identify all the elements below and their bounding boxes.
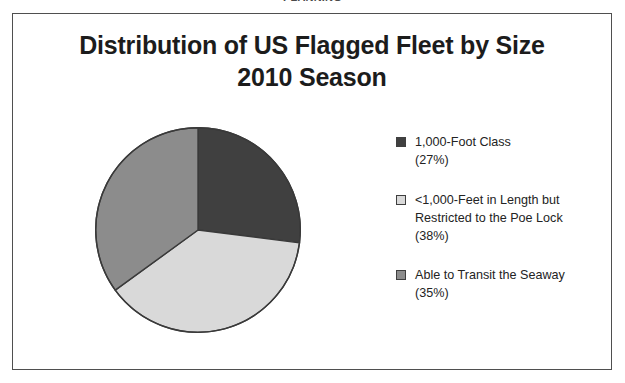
pie-slice-1000-foot-class[interactable] xyxy=(198,128,300,243)
legend-label-line-1: 1,000-Foot Class xyxy=(415,134,611,152)
plot-area: 1,000-Foot Class (27%) <1,000-Feet in Le… xyxy=(13,14,613,371)
legend-label-line-1: <1,000-Feet in Length but xyxy=(415,192,611,210)
legend-swatch-icon-1000-foot-class xyxy=(396,137,406,147)
legend-label-line-2: Restricted to the Poe Lock xyxy=(415,210,611,228)
legend-item-under-1000-feet-poe-lock[interactable]: <1,000-Feet in Length but Restricted to … xyxy=(396,192,611,246)
chart-legend: 1,000-Foot Class (27%) <1,000-Feet in Le… xyxy=(396,134,611,325)
pie-slices xyxy=(96,128,301,333)
legend-swatch-icon-under-1000-feet-poe-lock xyxy=(396,195,406,205)
legend-percent: (27%) xyxy=(415,152,611,170)
legend-percent: (38%) xyxy=(415,228,611,246)
clipped-page-header-text: PLANNING xyxy=(0,0,625,3)
legend-label-line-1: Able to Transit the Seaway xyxy=(415,267,611,285)
legend-percent: (35%) xyxy=(415,285,611,303)
pie-chart xyxy=(93,125,303,335)
legend-item-able-to-transit-seaway[interactable]: Able to Transit the Seaway (35%) xyxy=(396,267,611,303)
legend-swatch-icon-able-to-transit-seaway xyxy=(396,270,406,280)
legend-item-1000-foot-class[interactable]: 1,000-Foot Class (27%) xyxy=(396,134,611,170)
chart-frame: Distribution of US Flagged Fleet by Size… xyxy=(12,13,612,370)
clipped-page-header: PLANNING xyxy=(0,0,625,9)
pie-chart-svg xyxy=(93,125,303,335)
